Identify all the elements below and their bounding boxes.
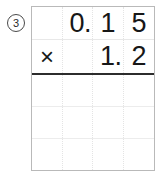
cell-r5-c2[interactable] <box>63 139 94 170</box>
cell-r1-c4[interactable]: 5 <box>124 7 155 39</box>
cell-r3-c4[interactable] <box>124 75 155 106</box>
cell-r2-c2[interactable] <box>63 40 94 73</box>
digit-r1-c3: 1 <box>100 10 115 37</box>
digit-r2-c3: 1. <box>100 43 122 70</box>
cell-r4-c3[interactable] <box>93 107 124 138</box>
digit-r1-c2: 0. <box>69 10 91 37</box>
cell-r2-c3[interactable]: 1. <box>93 40 124 73</box>
work-row-1 <box>32 75 154 107</box>
cell-r1-c2[interactable]: 0. <box>63 7 94 39</box>
cell-r2-c4[interactable]: 2 <box>124 40 155 73</box>
cell-r4-c4[interactable] <box>124 107 155 138</box>
calculation-grid: 0. 1 5 × 1. 2 <box>31 6 155 171</box>
worksheet-problem: 3 0. 1 5 × 1. <box>0 0 163 178</box>
cell-r1-c3[interactable]: 1 <box>93 7 124 39</box>
multiplier-row: × 1. 2 <box>32 40 154 75</box>
answer-row <box>32 139 154 170</box>
cell-r3-c1[interactable] <box>32 75 63 106</box>
cell-r1-c1[interactable] <box>32 7 63 39</box>
cell-r3-c3[interactable] <box>93 75 124 106</box>
cell-r2-c1-operator[interactable]: × <box>32 40 63 73</box>
problem-number-badge: 3 <box>7 14 25 32</box>
multiplication-operator-icon: × <box>40 45 54 69</box>
cell-r4-c1[interactable] <box>32 107 63 138</box>
digit-r2-c4: 2 <box>131 43 146 70</box>
multiplicand-row: 0. 1 5 <box>32 7 154 40</box>
digit-r1-c4: 5 <box>131 10 146 37</box>
problem-number-label: 3 <box>13 18 19 29</box>
cell-r5-c4[interactable] <box>124 139 155 170</box>
cell-r5-c3[interactable] <box>93 139 124 170</box>
cell-r3-c2[interactable] <box>63 75 94 106</box>
work-row-2 <box>32 107 154 139</box>
cell-r4-c2[interactable] <box>63 107 94 138</box>
cell-r5-c1[interactable] <box>32 139 63 170</box>
